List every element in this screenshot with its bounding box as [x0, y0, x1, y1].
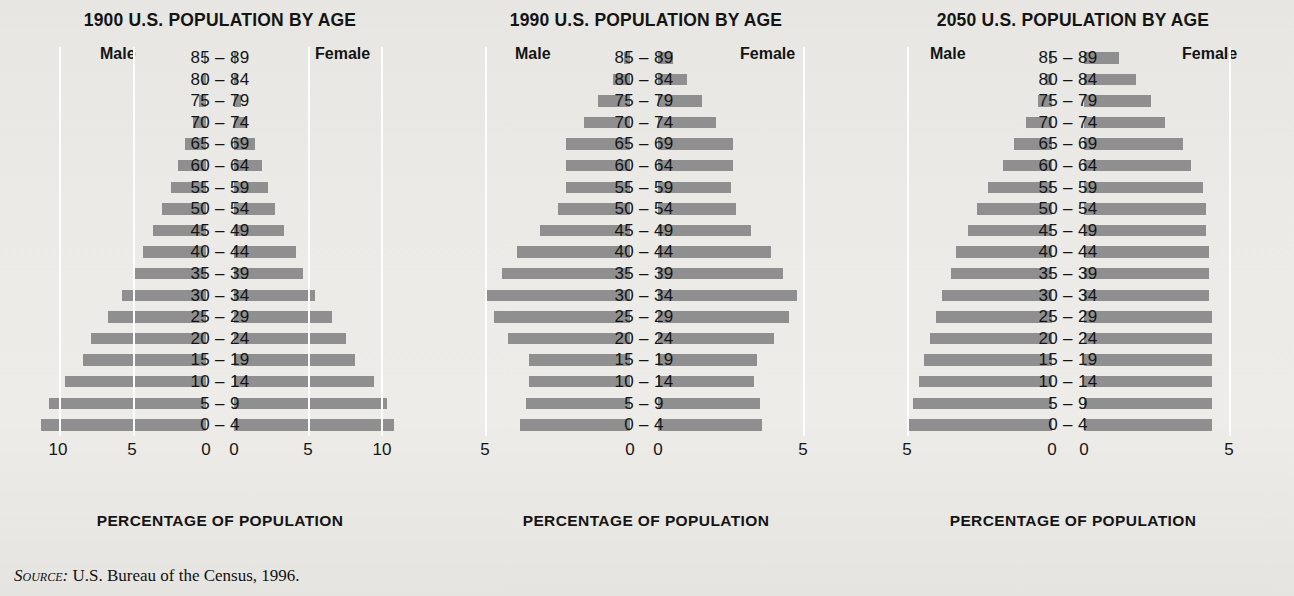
age-group-label: 25 – 29 — [191, 306, 250, 328]
male-bar-cell — [0, 133, 206, 155]
pyramid-row: 40 – 44 — [440, 241, 852, 263]
age-group-label: 30 – 34 — [615, 285, 674, 307]
female-bar-cell — [234, 263, 440, 285]
male-bar-cell — [0, 155, 206, 177]
male-bar-cell — [852, 177, 1052, 199]
age-group-label: 75 – 79 — [615, 90, 674, 112]
male-bar-cell — [0, 90, 206, 112]
female-bar-cell — [1084, 112, 1294, 134]
male-bar — [485, 290, 630, 302]
age-group-label: 65 – 69 — [191, 133, 250, 155]
male-bar-cell — [0, 371, 206, 393]
male-bar-cell — [852, 220, 1052, 242]
female-bar-cell — [234, 328, 440, 350]
female-bar-cell — [658, 177, 852, 199]
female-bar — [234, 398, 387, 410]
female-bar-cell — [1084, 285, 1294, 307]
age-group-label: 85 – 89 — [615, 47, 674, 69]
male-bar-cell — [440, 285, 630, 307]
age-group-label: 75 – 79 — [191, 90, 250, 112]
gridline — [133, 47, 135, 436]
age-group-label: 85 – 89 — [191, 47, 250, 69]
pyramid-row: 10 – 14 — [852, 371, 1294, 393]
female-bar-cell — [1084, 47, 1294, 69]
male-bar-cell — [852, 263, 1052, 285]
pyramid-row: 30 – 34 — [0, 285, 440, 307]
female-bar-cell — [234, 155, 440, 177]
pyramid-row: 75 – 79 — [0, 90, 440, 112]
male-bar-cell — [440, 112, 630, 134]
gridline — [1229, 47, 1231, 436]
male-bar — [907, 419, 1052, 431]
female-bar — [1084, 138, 1183, 150]
female-bar-cell — [1084, 263, 1294, 285]
female-bar-cell — [658, 371, 852, 393]
axis-tick-label: 5 — [127, 440, 136, 460]
age-group-label: 20 – 24 — [191, 328, 250, 350]
pyramid-row: 25 – 29 — [852, 306, 1294, 328]
male-bar-cell — [440, 263, 630, 285]
pyramid-row: 5 – 9 — [0, 393, 440, 415]
male-bar-cell — [440, 133, 630, 155]
female-bar-cell — [658, 349, 852, 371]
pyramid-row: 40 – 44 — [852, 241, 1294, 263]
female-bar — [1084, 333, 1212, 345]
female-bar — [234, 333, 346, 345]
gridline — [485, 47, 487, 436]
axis-tick-label: 0 — [653, 440, 662, 460]
female-bar-cell — [658, 133, 852, 155]
female-bar — [658, 311, 789, 323]
age-group-label: 75 – 79 — [1039, 90, 1098, 112]
male-bar-cell — [0, 241, 206, 263]
chart-title-1990: 1990 U.S. POPULATION BY AGE — [440, 10, 852, 31]
age-group-label: 0 – 4 — [624, 414, 663, 436]
age-group-label: 35 – 39 — [1039, 263, 1098, 285]
pyramid-row: 45 – 49 — [852, 220, 1294, 242]
male-bar-cell — [0, 349, 206, 371]
male-bar-cell — [852, 90, 1052, 112]
axis-tick-label: 5 — [480, 440, 489, 460]
gridline — [907, 47, 909, 436]
pyramid-row: 0 – 4 — [852, 414, 1294, 436]
male-bar-cell — [440, 69, 630, 91]
female-bar-cell — [234, 177, 440, 199]
pyramid-row: 30 – 34 — [852, 285, 1294, 307]
female-bar-cell — [658, 112, 852, 134]
pyramid-row: 65 – 69 — [852, 133, 1294, 155]
female-bar-cell — [658, 69, 852, 91]
female-bar-cell — [234, 371, 440, 393]
female-bar-cell — [1084, 241, 1294, 263]
pyramid-row: 5 – 9 — [440, 393, 852, 415]
male-bar-cell — [440, 155, 630, 177]
female-bar-cell — [658, 47, 852, 69]
female-bar-cell — [658, 155, 852, 177]
pyramid-row: 35 – 39 — [440, 263, 852, 285]
male-bar — [526, 398, 630, 410]
age-group-label: 35 – 39 — [191, 263, 250, 285]
age-group-label: 55 – 59 — [615, 177, 674, 199]
pyramid-row: 30 – 34 — [440, 285, 852, 307]
pyramid-row: 85 – 89 — [0, 47, 440, 69]
axis-1900: 10500510 — [0, 440, 440, 466]
male-bar — [913, 398, 1052, 410]
age-group-label: 80 – 84 — [615, 69, 674, 91]
male-bar-cell — [0, 198, 206, 220]
age-group-label: 10 – 14 — [191, 371, 250, 393]
female-bar-cell — [1084, 393, 1294, 415]
male-bar — [83, 354, 206, 366]
pyramid-row: 80 – 84 — [440, 69, 852, 91]
male-bar — [936, 311, 1052, 323]
age-group-label: 10 – 14 — [615, 371, 674, 393]
male-bar-cell — [440, 47, 630, 69]
pyramid-row: 20 – 24 — [440, 328, 852, 350]
age-group-label: 50 – 54 — [615, 198, 674, 220]
axis-tick-label: 0 — [1079, 440, 1088, 460]
female-bar — [1084, 182, 1203, 194]
female-bar-cell — [658, 220, 852, 242]
male-bar-cell — [440, 349, 630, 371]
age-group-label: 60 – 64 — [615, 155, 674, 177]
pyramid-row: 0 – 4 — [0, 414, 440, 436]
pyramid-row: 70 – 74 — [852, 112, 1294, 134]
gridline — [59, 47, 61, 436]
female-bar-cell — [234, 47, 440, 69]
